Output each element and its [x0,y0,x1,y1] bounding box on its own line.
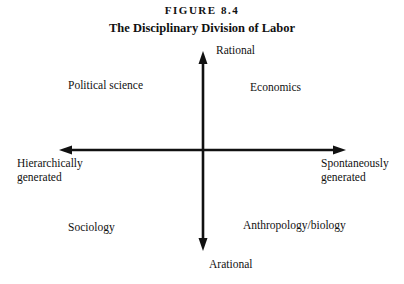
axis-label-spontaneously-generated: Spontaneously generated [321,156,389,184]
arrow-left-icon [59,146,72,155]
quadrant-economics: Economics [250,80,301,94]
arrow-up-icon [199,51,208,64]
arrow-right-icon [333,146,346,155]
axis-label-left-line2: generated [17,170,83,184]
axis-label-right-line2: generated [321,170,389,184]
axis-label-arational: Arational [209,257,252,271]
quadrant-political-science: Political science [68,78,143,92]
axis-label-left-line1: Hierarchically [17,156,83,170]
axes-diagram [0,0,404,284]
quadrant-anthropology-biology: Anthropology/biology [243,218,346,232]
axis-label-right-line1: Spontaneously [321,156,389,170]
arrow-down-icon [199,238,208,251]
quadrant-sociology: Sociology [68,220,115,234]
axis-label-rational: Rational [216,43,255,57]
axis-label-hierarchically-generated: Hierarchically generated [17,156,83,184]
